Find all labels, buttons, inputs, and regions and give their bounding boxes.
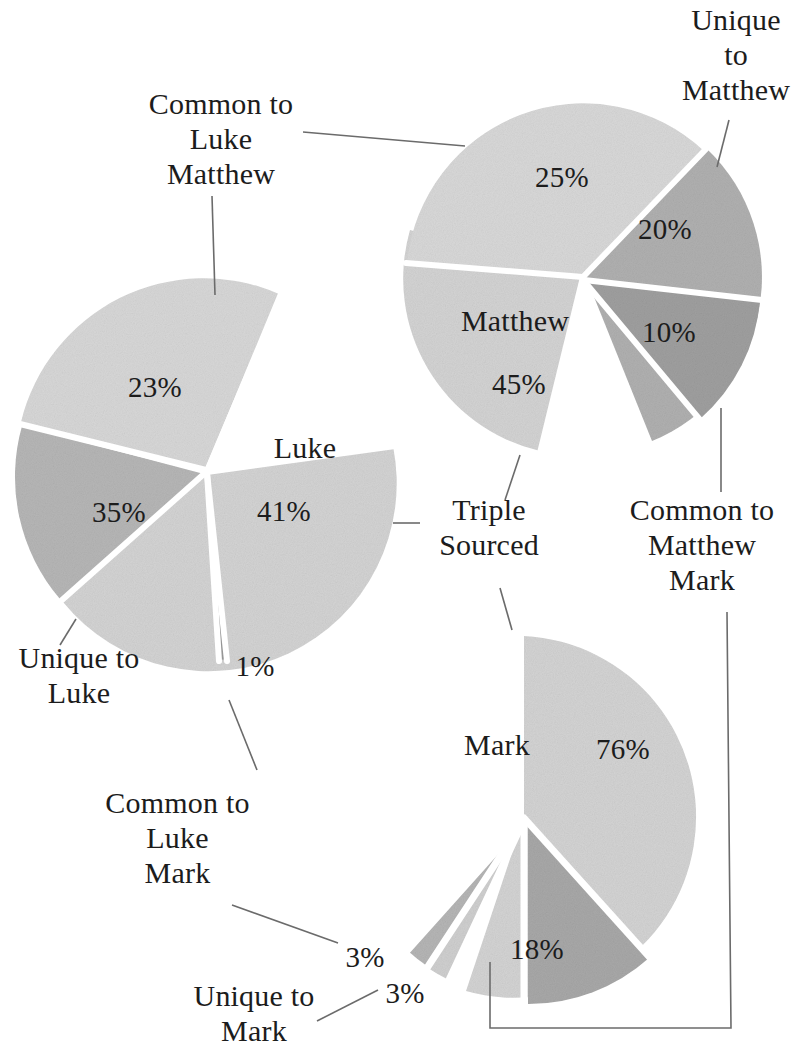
pie-label-luke: Luke: [257, 430, 353, 465]
value-label-matthew-20: 20%: [623, 213, 707, 247]
callout-common-matthew-mark: Common to Matthew Mark: [608, 492, 796, 597]
leader-1pct-to-common-luke-mark: [229, 700, 257, 770]
leader-triple-sourced-to-mark: [500, 588, 512, 630]
value-label-matthew-45: 45%: [477, 368, 561, 402]
leader-unique-to-matthew: [717, 120, 729, 167]
callout-unique-to-mark: Unique to Mark: [164, 978, 344, 1048]
value-label-matthew-25: 25%: [520, 161, 604, 195]
callout-common-luke-matthew: Common to Luke Matthew: [136, 86, 306, 191]
value-label-mark-3a: 3%: [332, 941, 398, 975]
value-label-luke-41: 41%: [242, 495, 326, 529]
leader-common-luke-matthew-to-matthew: [303, 132, 465, 146]
value-label-mark-18: 18%: [495, 933, 579, 967]
value-label-mark-3b: 3%: [372, 977, 438, 1011]
callout-unique-to-luke: Unique to Luke: [0, 640, 158, 710]
value-label-luke-35: 35%: [77, 496, 161, 530]
value-label-luke-23: 23%: [113, 371, 197, 405]
pie-label-mark: Mark: [447, 727, 547, 762]
callout-common-luke-mark: Common to Luke Mark: [90, 785, 265, 890]
figure-canvas: Synoptic Gospel Sources: [0, 0, 807, 1055]
leader-common-luke-mark-to-mark: [232, 905, 338, 943]
callout-unique-to-matthew: Unique to Matthew: [666, 2, 806, 107]
value-label-mark-76: 76%: [581, 733, 665, 767]
value-label-luke-1: 1%: [222, 650, 288, 684]
pie-label-matthew: Matthew: [441, 303, 589, 338]
callout-triple-sourced: Triple Sourced: [419, 492, 559, 562]
value-label-matthew-10: 10%: [627, 316, 711, 350]
